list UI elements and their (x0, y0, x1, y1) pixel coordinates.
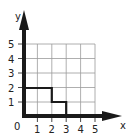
y-tick-label-1: 1 (8, 97, 14, 108)
x-axis-label: x (120, 120, 126, 131)
y-axis-label: y (15, 11, 21, 22)
x-tick-label-2: 2 (49, 124, 55, 135)
x-tick-label-4: 4 (78, 124, 84, 135)
grid (23, 44, 95, 116)
y-tick-label-4: 4 (8, 54, 14, 65)
y-tick-label-2: 2 (8, 83, 14, 94)
x-tick-label-1: 1 (34, 124, 40, 135)
y-tick-label-5: 5 (8, 39, 14, 50)
x-tick-label-5: 5 (92, 124, 98, 135)
x-axis-arrow-icon (102, 111, 122, 121)
coordinate-plane: y x 0 5 4 3 2 1 1 2 3 4 5 (0, 0, 134, 138)
origin-label: 0 (14, 121, 20, 132)
x-tick-label-3: 3 (63, 124, 69, 135)
y-tick-label-3: 3 (8, 68, 14, 79)
